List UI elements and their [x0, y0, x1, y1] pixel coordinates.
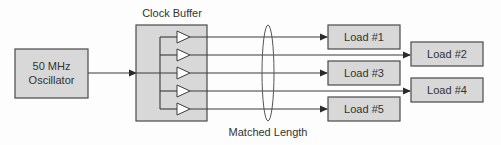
- load-label: Load #2: [427, 48, 467, 60]
- matched-length-label: Matched Length: [229, 126, 308, 138]
- load-2: Load #2: [411, 42, 483, 66]
- load-label: Load #4: [427, 84, 467, 96]
- load-1: Load #1: [328, 25, 400, 49]
- load-5: Load #5: [328, 97, 400, 121]
- load-label: Load #1: [344, 31, 384, 43]
- load-3: Load #3: [328, 61, 400, 85]
- load-label: Load #3: [344, 67, 384, 79]
- clock-buffer-block: Clock Buffer: [136, 7, 207, 121]
- oscillator-label-line1: 50 MHz: [33, 60, 71, 72]
- load-4: Load #4: [411, 78, 483, 102]
- load-label: Load #5: [344, 103, 384, 115]
- oscillator-block: 50 MHz Oscillator: [15, 49, 88, 98]
- diagram-svg: 50 MHz Oscillator Clock Buffer: [0, 0, 501, 145]
- clock-distribution-diagram: 50 MHz Oscillator Clock Buffer: [0, 0, 501, 145]
- oscillator-label-line2: Oscillator: [29, 74, 75, 86]
- clock-buffer-title: Clock Buffer: [142, 7, 202, 19]
